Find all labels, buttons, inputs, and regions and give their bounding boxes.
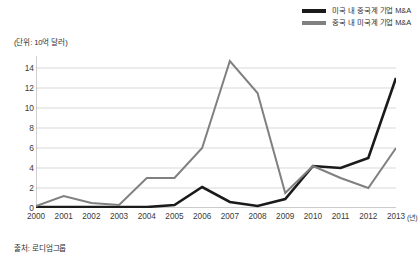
series-lines — [36, 61, 396, 207]
x-tick-label: 2004 — [138, 212, 156, 222]
x-tick-label: 2007 — [221, 212, 239, 222]
x-tick-label: 2013 — [387, 212, 405, 222]
x-tick-label: 2005 — [165, 212, 183, 222]
x-tick-label: 2000 — [27, 212, 45, 222]
y-tick-label: 8 — [29, 124, 34, 133]
x-tick-label: 2006 — [193, 212, 211, 222]
plot-area — [36, 56, 396, 208]
x-tick-label: 2011 — [332, 212, 350, 222]
y-tick-label: 4 — [29, 164, 34, 173]
x-tick-label: 2002 — [82, 212, 100, 222]
legend-line-swatch-icon — [302, 9, 326, 13]
legend-item-series-b: 중국 내 미국계 기업 M&A — [302, 18, 411, 27]
x-tick-label: 2003 — [110, 212, 128, 222]
x-tick-label: 2012 — [359, 212, 377, 222]
y-tick-label: 12 — [25, 84, 34, 93]
series-line — [36, 61, 396, 206]
x-tick-label: 2008 — [248, 212, 266, 222]
legend-item-label: 중국 내 미국계 기업 M&A — [332, 18, 411, 27]
chart-legend: 미국 내 중국계 기업 M&A 중국 내 미국계 기업 M&A — [302, 6, 411, 27]
y-axis-unit-note: (단위: 10억 달러) — [14, 36, 68, 47]
y-axis-tick-labels: 02468101214 — [14, 50, 34, 214]
x-axis-tick-labels: 2000200120022003200420052006200720082009… — [36, 212, 396, 226]
x-axis-unit-label: (년) — [407, 213, 418, 223]
legend-item-series-a: 미국 내 중국계 기업 M&A — [302, 6, 411, 15]
y-tick-label: 2 — [29, 184, 34, 193]
gridlines — [36, 68, 396, 208]
x-tick-label: 2010 — [304, 212, 322, 222]
legend-line-swatch-icon — [302, 21, 326, 25]
y-tick-label: 6 — [29, 144, 34, 153]
x-tick-label: 2001 — [55, 212, 73, 222]
source-note: 출처: 로디엄그룹 — [14, 242, 66, 253]
line-chart-svg — [36, 56, 396, 208]
y-tick-label: 10 — [25, 104, 34, 113]
legend-item-label: 미국 내 중국계 기업 M&A — [332, 6, 411, 15]
y-tick-label: 14 — [25, 64, 34, 73]
x-tick-label: 2009 — [276, 212, 294, 222]
